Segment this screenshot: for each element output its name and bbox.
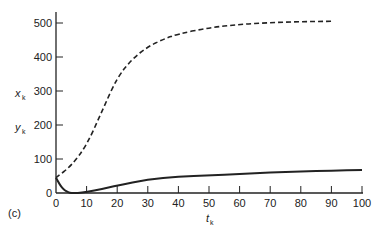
x-tick-label: 30 bbox=[142, 197, 154, 209]
y-tick-label: 300 bbox=[34, 85, 52, 97]
y-label-xk: x bbox=[14, 87, 21, 99]
y-label-yk: y bbox=[14, 121, 22, 133]
x-tick-label: 20 bbox=[111, 197, 123, 209]
y-label-xk-sub: k bbox=[22, 94, 26, 101]
x-tick-label: 10 bbox=[80, 197, 92, 209]
x-label-sub: k bbox=[210, 219, 214, 226]
x-tick-label: 70 bbox=[264, 197, 276, 209]
y-label-yk-sub: k bbox=[22, 128, 26, 135]
x-tick-label: 50 bbox=[203, 197, 215, 209]
x-tick-label: 60 bbox=[233, 197, 245, 209]
line-chart: 01020304050607080901000100200300400500xk… bbox=[0, 0, 380, 233]
series-x-k bbox=[56, 21, 331, 177]
y-tick-label: 100 bbox=[34, 153, 52, 165]
panel-label: (c) bbox=[8, 207, 21, 219]
y-tick-label: 200 bbox=[34, 119, 52, 131]
x-tick-label: 100 bbox=[353, 197, 371, 209]
x-tick-label: 80 bbox=[295, 197, 307, 209]
x-tick-label: 40 bbox=[172, 197, 184, 209]
chart: 01020304050607080901000100200300400500xk… bbox=[0, 0, 380, 233]
y-tick-label: 0 bbox=[46, 187, 52, 199]
x-tick-label: 90 bbox=[325, 197, 337, 209]
y-tick-label: 500 bbox=[34, 17, 52, 29]
y-tick-label: 400 bbox=[34, 51, 52, 63]
x-tick-label: 0 bbox=[53, 197, 59, 209]
